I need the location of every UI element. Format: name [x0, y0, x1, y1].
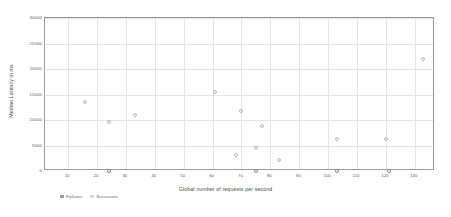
x-tick-label: 120	[381, 173, 388, 178]
x-axis-ticks: 102030405060708090100110120130	[0, 0, 451, 217]
x-tick-label: 40	[151, 173, 156, 178]
x-tick-label: 10	[65, 173, 70, 178]
x-tick-label: 20	[94, 173, 99, 178]
x-tick-label: 110	[353, 173, 360, 178]
x-tick-label: 80	[267, 173, 272, 178]
legend-swatch-failures-icon	[60, 195, 64, 199]
x-tick-label: 50	[180, 173, 185, 178]
chart-legend: FailuresSuccesses	[60, 194, 118, 199]
chart-root: 050001000015000200002500030000 102030405…	[0, 0, 451, 217]
x-tick-label: 70	[238, 173, 243, 178]
x-tick-label: 60	[209, 173, 214, 178]
x-tick-label: 30	[122, 173, 127, 178]
x-tick-label: 90	[296, 173, 301, 178]
y-axis-label: Median Latency in ms	[8, 51, 14, 131]
x-tick-label: 130	[410, 173, 417, 178]
legend-label: Successes	[96, 194, 118, 199]
legend-label: Failures	[66, 194, 82, 199]
x-axis-label: Global number of requests per second	[0, 186, 451, 192]
legend-swatch-successes-icon	[90, 195, 94, 199]
legend-item-successes[interactable]: Successes	[90, 194, 118, 199]
x-tick-label: 100	[324, 173, 331, 178]
legend-item-failures[interactable]: Failures	[60, 194, 82, 199]
